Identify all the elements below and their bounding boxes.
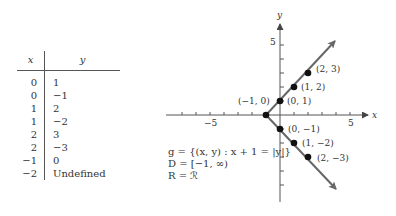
svg-text:(1, −2): (1, −2)	[302, 138, 334, 148]
svg-text:(2, 3): (2, 3)	[316, 64, 340, 74]
y-axis-label: y	[276, 10, 283, 20]
svg-text:(2, −3): (2, −3)	[317, 153, 349, 163]
domain-annotation: D = [−1, ∞)	[168, 158, 228, 170]
svg-text:(0, −1): (0, −1)	[288, 124, 320, 134]
svg-text:(−1, 0): (−1, 0)	[238, 96, 270, 106]
svg-text:(0, 1): (0, 1)	[287, 96, 311, 106]
relation-annotation: g = {(x, y) : x + 1 = |y|}	[168, 146, 291, 158]
x-axis-label: x	[372, 110, 377, 120]
range-annotation: R = ℛ	[168, 170, 198, 182]
svg-text:(1, 2): (1, 2)	[301, 82, 325, 92]
x-tick-label-neg5: −5	[204, 118, 218, 128]
graph: x y −5 5 5 (−1, 0) (0, 1) (1, 2) (2, 3) …	[0, 0, 396, 216]
y-tick-label-5: 5	[270, 37, 276, 47]
x-tick-label-5: 5	[348, 118, 354, 128]
